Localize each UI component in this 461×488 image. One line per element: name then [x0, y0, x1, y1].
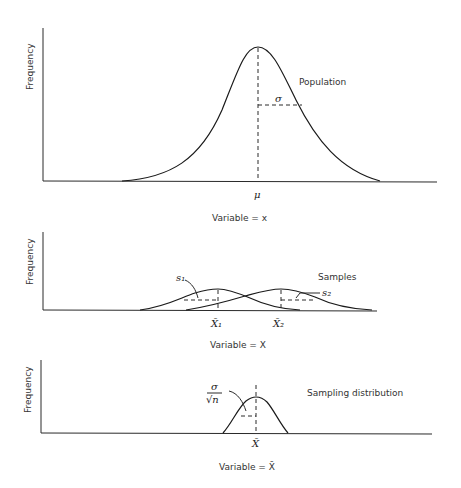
sample-1-curve [140, 289, 300, 310]
panel-population: Frequency Population σ μ Variable = x [25, 28, 437, 223]
figure-canvas: Frequency Population σ μ Variable = x Fr… [0, 0, 461, 488]
sigma-label: σ [275, 93, 283, 104]
se-label-numerator: σ [211, 381, 219, 392]
y-axis-label: Frequency [23, 366, 33, 413]
x-axis [41, 433, 432, 434]
curve-label: Population [299, 77, 346, 87]
mean-label: μ [254, 189, 261, 200]
se-label-denominator: √n [206, 394, 219, 405]
x-axis-label: Variable = X [210, 340, 266, 350]
mean-2-label: X̄₂ [272, 318, 284, 329]
panel-samples: Frequency Samples s₁ s₂ X̄₁ X̄₂ Variable… [25, 232, 377, 350]
mean-label: X̄ [251, 438, 260, 449]
curve-label: Samples [318, 272, 357, 282]
s2-label: s₂ [322, 287, 331, 298]
mean-1-label: X̄₁ [210, 318, 222, 329]
x-axis-label: Variable = x [212, 213, 268, 223]
se-pointer [229, 391, 246, 411]
x-axis-label: Variable = X̄ [219, 461, 275, 472]
y-axis-label: Frequency [25, 238, 35, 285]
curve-label: Sampling distribution [307, 388, 403, 398]
population-curve [122, 47, 380, 181]
s1-label: s₁ [176, 272, 185, 283]
s1-pointer [185, 280, 198, 298]
x-axis [43, 181, 437, 182]
y-axis-label: Frequency [25, 43, 35, 90]
x-axis [43, 310, 377, 311]
panel-sampling-distribution: Frequency Sampling distribution σ √n X̄ … [23, 360, 432, 472]
